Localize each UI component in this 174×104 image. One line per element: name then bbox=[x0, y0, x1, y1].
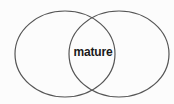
intersection-label: mature bbox=[70, 45, 116, 59]
